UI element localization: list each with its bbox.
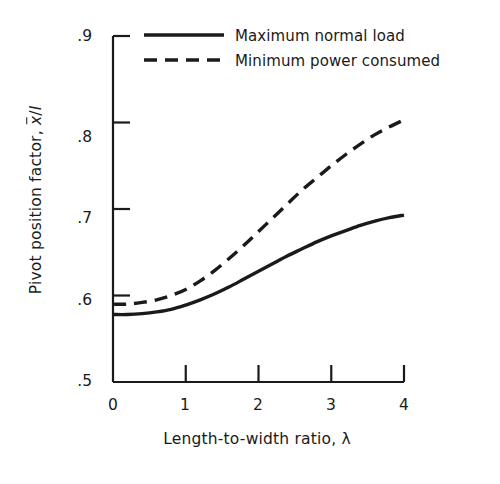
y-axis-ticks — [113, 36, 130, 296]
data-series-group — [113, 120, 404, 315]
chart-figure: Pivot position factor, x/l Length-to-wid… — [0, 0, 500, 484]
legend-swatches — [144, 35, 224, 60]
plot-area — [0, 0, 500, 484]
series-line-1 — [113, 120, 404, 304]
x-axis-ticks — [186, 365, 404, 382]
axes — [113, 36, 404, 382]
